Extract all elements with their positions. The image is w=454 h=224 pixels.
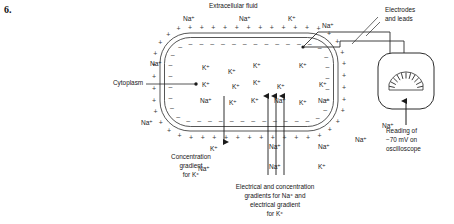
electrodes-callout-lines — [352, 17, 380, 44]
charge-positive: + — [293, 24, 297, 31]
charge-negative: – — [221, 40, 225, 47]
charge-positive: + — [246, 24, 250, 31]
charge-negative: – — [286, 40, 290, 47]
charge-negative: – — [170, 104, 174, 111]
charge-negative: – — [316, 114, 320, 121]
charge-negative: – — [243, 40, 247, 47]
ion-label-extracellular: Na⁺ — [355, 136, 367, 143]
charge-negative: – — [169, 72, 173, 79]
charge-negative: – — [232, 40, 236, 47]
charge-positive: + — [152, 97, 156, 104]
ion-label-extracellular: Na⁺ — [382, 122, 394, 129]
ion-label-extracellular: Na⁺ — [239, 15, 251, 22]
diagram-canvas: 6. — [0, 0, 454, 224]
charge-negative: – — [199, 40, 203, 47]
charge-positive: + — [224, 134, 228, 141]
ion-label-intracellular: K⁺ — [229, 99, 237, 106]
label-concentration-gradient-line3: for K⁺ — [159, 171, 223, 179]
ion-label-extracellular: Na⁺ — [183, 15, 195, 22]
ion-label-intracellular: K⁺ — [251, 97, 259, 104]
label-reading-line3: oscilloscope — [386, 145, 421, 153]
charge-positive: + — [235, 24, 239, 31]
label-electrical-concentration-line1: Electrical and concentration — [190, 183, 360, 191]
electrode-lead-intracellular — [301, 32, 390, 55]
charge-positive: + — [335, 38, 339, 45]
charge-positive: + — [283, 134, 287, 141]
charge-negative: – — [197, 117, 201, 124]
charge-positive: + — [223, 24, 227, 31]
charge-negative: – — [297, 40, 301, 47]
charge-positive: + — [316, 25, 320, 32]
charge-negative: – — [318, 44, 322, 51]
charge-negative: – — [169, 94, 173, 101]
charge-positive: + — [153, 50, 157, 57]
ion-label-intracellular: K⁺ — [299, 62, 307, 69]
ion-label-intracellular: K⁺ — [277, 83, 285, 90]
charge-positive: + — [282, 24, 286, 31]
charge-positive: + — [188, 24, 192, 31]
charge-positive: + — [176, 25, 180, 32]
charge-negative: – — [176, 113, 180, 120]
ion-label-extracellular: K⁺ — [288, 15, 296, 22]
charge-negative: – — [210, 40, 214, 47]
charge-negative: – — [219, 117, 223, 124]
charge-positive: + — [271, 134, 275, 141]
charge-positive: + — [166, 31, 170, 38]
oscilloscope-body — [378, 53, 434, 109]
ion-label-extracellular: K⁺ — [210, 145, 218, 152]
charge-positive: + — [327, 30, 331, 37]
charge-positive: + — [328, 126, 332, 133]
label-electrical-concentration-line4: for K⁺ — [190, 210, 360, 218]
charge-positive: + — [152, 73, 156, 80]
charge-negative: – — [171, 51, 175, 58]
charge-negative: – — [251, 117, 255, 124]
ion-label-intracellular: K⁺ — [202, 81, 210, 88]
label-concentration-gradient-line2: gradient — [159, 162, 223, 170]
ion-label-extracellular: Na⁺ — [318, 143, 330, 150]
charge-positive: + — [259, 134, 263, 141]
charge-positive: + — [212, 134, 216, 141]
charge-negative: – — [230, 117, 234, 124]
ion-label-extracellular: Na⁺ — [141, 119, 153, 126]
charge-positive: + — [342, 60, 346, 67]
charge-positive: + — [340, 49, 344, 56]
charge-positive: + — [158, 39, 162, 46]
charge-positive: + — [341, 107, 345, 114]
cell-membrane-inner — [165, 38, 334, 127]
charge-negative: – — [273, 117, 277, 124]
charge-positive: + — [317, 132, 321, 139]
ion-label-intracellular: K⁺ — [253, 79, 261, 86]
charge-positive: + — [200, 24, 204, 31]
ion-label-extracellular: Na⁺ — [322, 22, 334, 29]
charge-positive: + — [177, 132, 181, 139]
charge-positive: + — [294, 134, 298, 141]
charge-positive: + — [236, 134, 240, 141]
label-electrodes: Electrodes — [385, 6, 415, 14]
charge-positive: + — [342, 84, 346, 91]
charge-positive: + — [247, 134, 251, 141]
intracellular-negative-charges: –––––––––––––––––––––––––––––––––––––––– — [169, 40, 330, 124]
charge-negative: – — [169, 83, 173, 90]
charge-negative: – — [308, 40, 312, 47]
ion-label-intracellular: K⁺ — [202, 64, 210, 71]
ion-label-intracellular: Na⁺ — [200, 97, 212, 104]
label-electrical-concentration-line3: electrical gradient — [190, 201, 360, 209]
charge-positive: + — [201, 134, 205, 141]
label-electrical-concentration-line2: gradients for Na⁺ and — [190, 192, 360, 200]
charge-positive: + — [167, 127, 171, 134]
ion-label-extracellular: Na⁺ — [198, 165, 210, 172]
ion-label-intracellular: K⁺ — [253, 62, 261, 69]
charge-positive: + — [258, 24, 262, 31]
charge-negative: – — [208, 117, 212, 124]
extracellular-positive-charges: ++++++++++++++++++++++++++++++++++++++++… — [152, 24, 346, 141]
charge-positive: + — [342, 72, 346, 79]
charge-negative: – — [284, 117, 288, 124]
charge-negative: – — [306, 117, 310, 124]
charge-positive: + — [305, 24, 309, 31]
charge-negative: – — [326, 63, 330, 70]
charge-positive: + — [336, 118, 340, 125]
charge-negative: – — [262, 117, 266, 124]
ion-label-intracellular: K⁺ — [232, 83, 240, 90]
charge-negative: – — [264, 40, 268, 47]
label-concentration-gradient-line1: Concentration — [159, 153, 223, 161]
